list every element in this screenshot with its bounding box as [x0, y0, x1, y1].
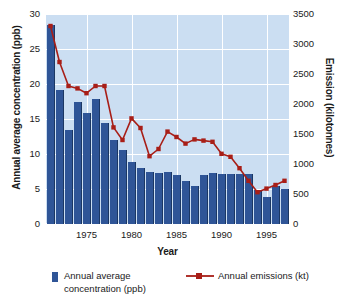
data-point-marker — [75, 86, 79, 90]
y-axis-right-tick-label: 500 — [293, 188, 323, 199]
data-point-marker — [255, 190, 259, 194]
x-axis-tick-label: 1985 — [157, 229, 197, 240]
data-point-marker — [201, 138, 205, 142]
y-axis-right-tick-label: 2500 — [293, 68, 323, 79]
data-point-marker — [156, 147, 160, 151]
plot-area — [46, 14, 289, 224]
data-point-marker — [264, 186, 268, 190]
x-axis-title: Year — [46, 246, 289, 257]
data-point-marker — [210, 140, 214, 144]
data-point-marker — [273, 183, 277, 187]
data-point-marker — [147, 154, 151, 158]
data-point-marker — [57, 60, 61, 64]
x-axis-tick-label: 1995 — [247, 229, 287, 240]
data-point-marker — [228, 155, 232, 159]
data-point-marker — [246, 179, 250, 183]
data-point-marker — [237, 166, 241, 170]
y-axis-left-tick-label: 30 — [18, 8, 40, 19]
y-axis-left-title: Annual average concentration (ppb) — [11, 8, 22, 208]
y-axis-left-tick-label: 0 — [18, 218, 40, 229]
data-point-marker — [282, 179, 286, 183]
line-series — [46, 14, 289, 224]
legend-bar-swatch — [52, 272, 58, 282]
legend-line-label: Annual emissions (kt) — [218, 270, 345, 281]
data-point-marker — [102, 84, 106, 88]
data-point-marker — [192, 137, 196, 141]
chart-figure: Annual average concentration (ppb) Emiss… — [0, 0, 345, 307]
y-axis-right-title: Emission (kilotonnes) — [324, 8, 335, 208]
x-axis-tick-label: 1975 — [67, 229, 107, 240]
y-axis-right-tick-label: 0 — [293, 218, 323, 229]
y-axis-left-tick-label: 25 — [18, 43, 40, 54]
legend-bar-label: Annual average concentration (ppb) — [64, 269, 174, 295]
y-axis-right-tick-label: 1000 — [293, 158, 323, 169]
y-axis-right-tick-label: 3000 — [293, 38, 323, 49]
y-axis-left-tick-label: 15 — [18, 113, 40, 124]
x-axis-tick-label: 1990 — [202, 229, 242, 240]
data-point-marker — [84, 91, 88, 95]
data-point-marker — [174, 135, 178, 139]
emissions-line — [51, 26, 285, 192]
y-axis-left-tick-label: 5 — [18, 183, 40, 194]
y-axis-right-tick-label: 3500 — [293, 8, 323, 19]
data-point-marker — [93, 84, 97, 88]
data-point-marker — [183, 141, 187, 145]
emissions-markers — [48, 24, 286, 195]
data-point-marker — [48, 24, 52, 28]
data-point-marker — [129, 116, 133, 120]
y-axis-left-tick-label: 10 — [18, 148, 40, 159]
data-point-marker — [219, 152, 223, 156]
y-axis-right-tick-label: 2000 — [293, 98, 323, 109]
data-point-marker — [66, 84, 70, 88]
data-point-marker — [120, 138, 124, 142]
y-axis-left-tick-label: 20 — [18, 78, 40, 89]
data-point-marker — [165, 129, 169, 133]
x-axis-tick-label: 1980 — [112, 229, 152, 240]
data-point-marker — [111, 125, 115, 129]
data-point-marker — [138, 126, 142, 130]
y-axis-right-tick-label: 1500 — [293, 128, 323, 139]
legend-line-swatch — [186, 271, 214, 281]
